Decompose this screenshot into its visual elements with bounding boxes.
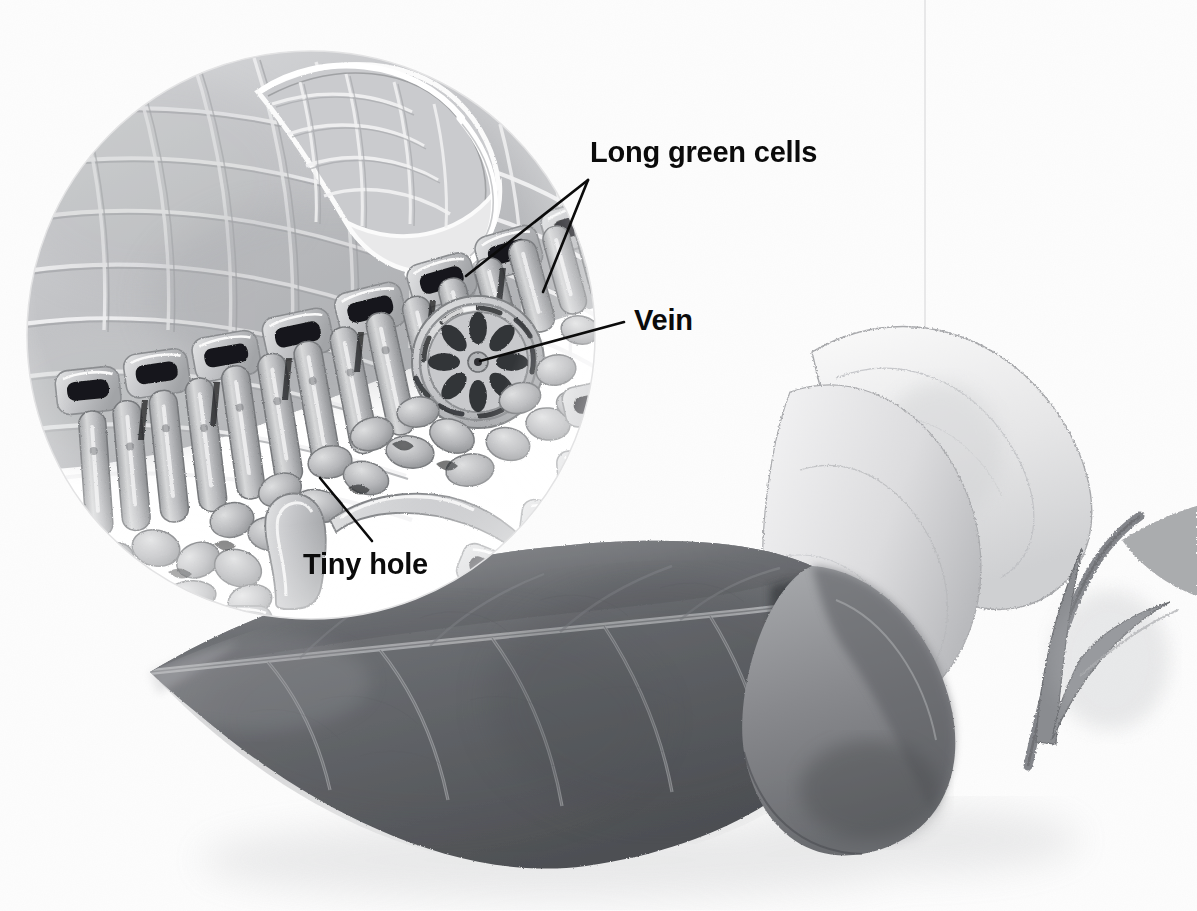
label-long-green-cells: Long green cells (590, 136, 817, 169)
illustration-canvas: Long green cells Vein Tiny hole (0, 0, 1197, 911)
label-tiny-hole: Tiny hole (303, 548, 428, 581)
label-vein: Vein (634, 304, 693, 337)
